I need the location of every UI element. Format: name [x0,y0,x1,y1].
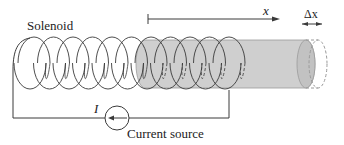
current-source-label: Current source [127,127,204,140]
x-axis-arrow [148,14,280,24]
delta-x-label: Δx [304,8,318,20]
x-axis-label: x [263,4,269,17]
solenoid-diagram: Solenoid x Δx I Current source [0,0,344,145]
delta-x-arrows [302,22,322,26]
current-source [105,106,129,130]
solenoid-label: Solenoid [27,19,73,32]
current-label: I [94,102,98,115]
